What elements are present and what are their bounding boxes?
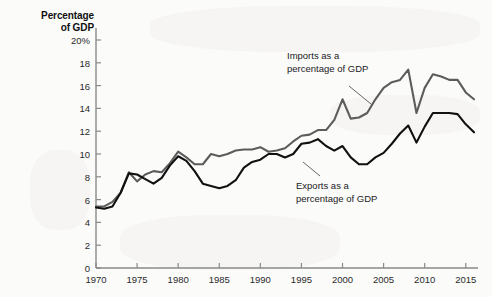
y-axis-tick-label: 10 (40, 149, 90, 160)
x-axis-tick-label: 1995 (291, 274, 312, 285)
x-axis-tick-label: 2015 (455, 274, 476, 285)
y-axis-tick-label: 12 (40, 126, 90, 137)
y-axis-tick-label: 0 (40, 263, 90, 274)
imports-label: Imports as a percentage of GDP (287, 50, 368, 75)
x-axis-tick-label: 1975 (127, 274, 148, 285)
annotation-leader-line (303, 162, 320, 176)
y-axis-tick-label: 14 (40, 103, 90, 114)
x-axis-tick-label: 1980 (168, 274, 189, 285)
x-axis-tick-label: 2005 (373, 274, 394, 285)
chart-figure: Percentage of GDP 02468101214161820% 197… (0, 0, 492, 297)
y-axis-tick-label: 18 (40, 57, 90, 68)
annotation-leader-line (349, 86, 371, 104)
x-axis-tick-label: 1970 (85, 274, 106, 285)
y-axis-ticks (96, 40, 101, 268)
x-axis-tick-label: 1985 (209, 274, 230, 285)
x-axis-ticks (96, 263, 466, 268)
data-series-group (96, 70, 474, 209)
y-axis-tick-label: 8 (40, 171, 90, 182)
series-line (96, 113, 474, 209)
x-axis-tick-label: 2010 (414, 274, 435, 285)
y-axis-tick-label: 6 (40, 194, 90, 205)
annotation-leader-lines (303, 86, 371, 176)
x-axis-tick-label: 1990 (250, 274, 271, 285)
series-line (96, 70, 474, 207)
y-axis-tick-label: 16 (40, 80, 90, 91)
exports-label: Exports as a percentage of GDP (296, 180, 377, 205)
y-axis-tick-label: 20% (40, 35, 90, 46)
y-axis-tick-label: 2 (40, 240, 90, 251)
x-axis-tick-label: 2000 (332, 274, 353, 285)
y-axis-tick-label: 4 (40, 217, 90, 228)
